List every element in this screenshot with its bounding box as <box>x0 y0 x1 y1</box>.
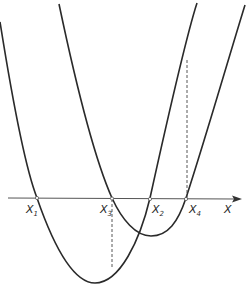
root-marker-x1 <box>35 196 38 199</box>
root-marker-x3 <box>110 197 113 200</box>
root-marker-x4 <box>184 197 187 200</box>
x-axis <box>8 196 242 203</box>
label-x3: X3 <box>99 203 112 218</box>
parabola-1 <box>0 3 197 283</box>
axis-label-x: X <box>223 203 232 216</box>
label-x1: X1 <box>25 203 38 218</box>
root-marker-x2 <box>148 197 151 200</box>
label-x4: X4 <box>188 203 201 218</box>
label-x2: X2 <box>151 203 165 218</box>
parabola-diagram: X1 X3 X2 X4 X <box>0 0 247 297</box>
parabola-2 <box>59 4 245 236</box>
